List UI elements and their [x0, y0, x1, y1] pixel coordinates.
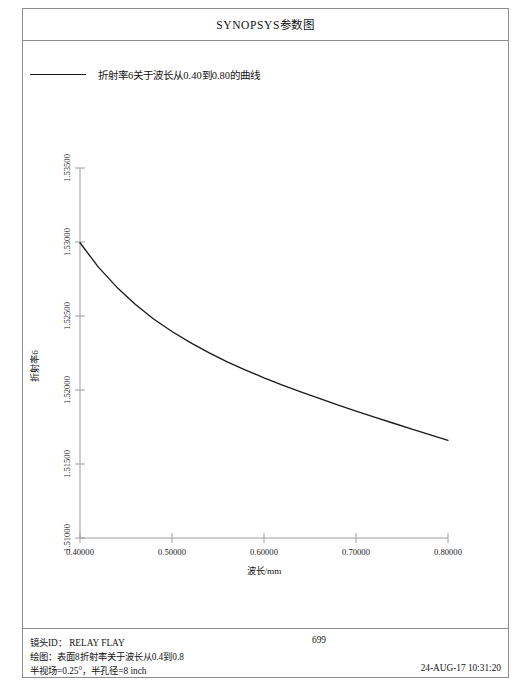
chart-legend: 折射率6关于波长从0.40到0.80的曲线	[30, 67, 260, 82]
footer-lens-id: 镜头ID： RELAY FLAY	[30, 635, 125, 649]
legend-line-swatch	[30, 74, 86, 75]
footer-datetime: 24-AUG-17 10:31:20	[421, 663, 501, 673]
footer-field-description: 半视场=0.25°，半孔径=8 inch	[30, 663, 146, 677]
page-frame	[22, 8, 509, 678]
footer: 镜头ID： RELAY FLAY 绘图：表面8折射率关于波长从0.4到0.8 半…	[22, 628, 509, 678]
footer-page-number: 699	[312, 635, 326, 645]
footer-plot-description: 绘图：表面8折射率关于波长从0.4到0.8	[30, 649, 184, 663]
title-bar: SYNOPSYS参数图	[22, 8, 509, 41]
page-title: SYNOPSYS参数图	[216, 16, 314, 32]
legend-label: 折射率6关于波长从0.40到0.80的曲线	[98, 67, 260, 82]
